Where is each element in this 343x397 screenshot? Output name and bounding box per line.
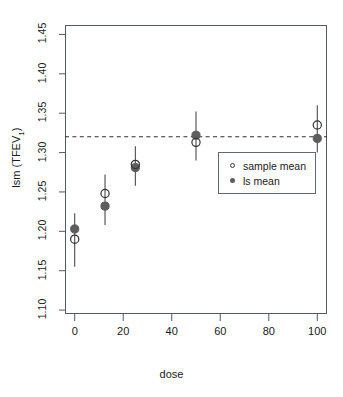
legend-label-ls-mean: ls mean	[239, 175, 280, 187]
filled-circle-icon	[225, 178, 239, 183]
open-circle-icon	[225, 163, 239, 168]
plot-canvas	[0, 0, 343, 397]
x-tick-label: 0	[58, 325, 92, 337]
legend-item-sample-mean: sample mean	[225, 158, 306, 173]
y-axis-label-text: lsm (TFEV	[10, 136, 22, 188]
y-tick-label: 1.30	[36, 135, 48, 169]
x-tick-label: 100	[300, 325, 334, 337]
legend-item-ls-mean: ls mean	[225, 173, 306, 188]
x-tick-label: 40	[155, 325, 189, 337]
x-tick-label: 60	[203, 325, 237, 337]
y-tick-label: 1.40	[36, 56, 48, 90]
chart-figure: PLOT OF LS MEANS AND SAMPLE MEANS BY DOS…	[0, 0, 343, 397]
y-tick-label: 1.20	[36, 213, 48, 247]
y-tick-label: 1.25	[36, 174, 48, 208]
x-axis-label: dose	[0, 368, 343, 380]
y-tick-label: 1.15	[36, 253, 48, 287]
y-axis-label: lsm (TFEV1)	[10, 103, 25, 213]
chart-legend: sample mean ls mean	[218, 152, 316, 194]
y-tick-label: 1.45	[36, 16, 48, 50]
y-axis-label-close: )	[10, 128, 22, 132]
x-tick-label: 20	[106, 325, 140, 337]
x-tick-label: 80	[252, 325, 286, 337]
legend-label-sample-mean: sample mean	[239, 160, 306, 172]
y-tick-label: 1.35	[36, 95, 48, 129]
y-tick-label: 1.10	[36, 292, 48, 326]
y-axis-label-subscript: 1	[17, 131, 26, 135]
